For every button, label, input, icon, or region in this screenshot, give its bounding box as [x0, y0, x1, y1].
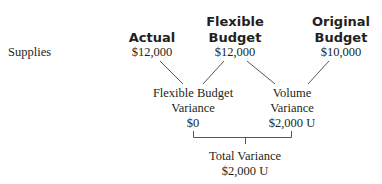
- volume-variance-label-line1: Volume: [273, 86, 312, 100]
- total-variance-value: $2,000 U: [222, 164, 269, 178]
- flexible-variance-label-line2: Variance: [171, 101, 215, 115]
- volume-variance-value: $2,000 U: [269, 116, 316, 130]
- flexible-variance-value: $0: [187, 116, 200, 130]
- flexible-variance-label-line1: Flexible Budget: [153, 86, 233, 100]
- volume-variance-label-line2: Variance: [270, 101, 314, 115]
- total-variance-label: Total Variance: [209, 149, 281, 163]
